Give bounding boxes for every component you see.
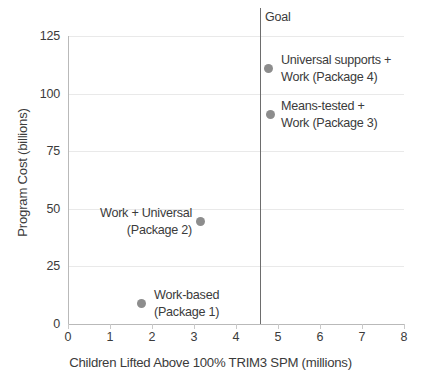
x-tick-label-1: 1 <box>98 330 122 344</box>
data-label-package-3-line2: Work (Package 3) <box>281 115 378 132</box>
x-axis-title: Children Lifted Above 100% TRIM3 SPM (mi… <box>0 355 421 370</box>
data-label-package-2-line2: (Package 2) <box>88 222 192 239</box>
goal-line-label: Goal <box>265 10 291 24</box>
y-axis-line <box>68 36 69 324</box>
x-tick-mark-0 <box>68 324 69 329</box>
x-tick-label-5: 5 <box>266 330 290 344</box>
y-tick-label-0: 0 <box>16 317 60 331</box>
x-tick-mark-3 <box>194 324 195 329</box>
data-label-package-4-line2: Work (Package 4) <box>281 69 391 86</box>
x-tick-mark-5 <box>278 324 279 329</box>
y-axis-title: Program Cost (billions) <box>15 58 30 288</box>
x-tick-mark-7 <box>362 324 363 329</box>
data-label-package-1-line1: Work-based <box>154 287 219 304</box>
scatter-chart: 125 100 75 50 25 0 0 1 2 3 4 5 6 7 8 Chi… <box>0 0 421 382</box>
x-tick-label-4: 4 <box>224 330 248 344</box>
data-label-package-3: Means-tested + Work (Package 3) <box>281 98 378 131</box>
data-label-package-1-line2: (Package 1) <box>154 304 219 321</box>
gridline-25 <box>68 266 404 267</box>
x-tick-label-6: 6 <box>308 330 332 344</box>
x-tick-mark-6 <box>320 324 321 329</box>
data-point-package-2[interactable] <box>196 217 205 226</box>
data-label-package-4-line1: Universal supports + <box>281 52 391 69</box>
x-tick-label-8: 8 <box>392 330 416 344</box>
x-tick-mark-2 <box>152 324 153 329</box>
data-label-package-2: Work + Universal (Package 2) <box>88 205 192 238</box>
gridline-100 <box>68 94 404 95</box>
x-tick-mark-1 <box>110 324 111 329</box>
y-tick-label-125: 125 <box>16 29 60 43</box>
data-label-package-2-line1: Work + Universal <box>88 205 192 222</box>
data-point-package-3[interactable] <box>266 110 275 119</box>
data-label-package-3-line1: Means-tested + <box>281 98 378 115</box>
data-label-package-4: Universal supports + Work (Package 4) <box>281 52 391 85</box>
x-tick-mark-4 <box>236 324 237 329</box>
x-tick-label-2: 2 <box>140 330 164 344</box>
gridline-75 <box>68 151 404 152</box>
gridline-125 <box>68 36 404 37</box>
goal-reference-line <box>260 8 261 324</box>
data-point-package-1[interactable] <box>137 299 146 308</box>
data-point-package-4[interactable] <box>264 64 273 73</box>
data-label-package-1: Work-based (Package 1) <box>154 287 219 320</box>
x-tick-mark-8 <box>404 324 405 329</box>
x-tick-label-3: 3 <box>182 330 206 344</box>
x-tick-label-7: 7 <box>350 330 374 344</box>
x-tick-label-0: 0 <box>56 330 80 344</box>
